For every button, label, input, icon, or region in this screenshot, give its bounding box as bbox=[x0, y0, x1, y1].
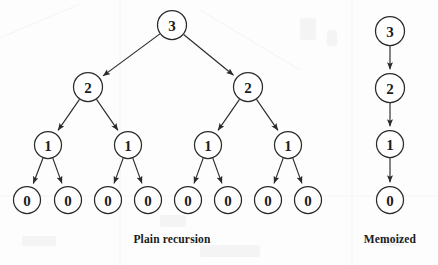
node-label: 1 bbox=[204, 138, 212, 154]
edge-p-r2a-to-p-z5 bbox=[194, 158, 203, 183]
node-label: 0 bbox=[264, 193, 272, 209]
caption-memoized: Memoized bbox=[364, 233, 417, 245]
node-label: 0 bbox=[23, 193, 31, 209]
node-label: 1 bbox=[284, 138, 292, 154]
node-label: 2 bbox=[386, 81, 394, 97]
node-p-z2[interactable]: 0 bbox=[55, 187, 82, 214]
edge-p-l2a-to-p-z1 bbox=[33, 158, 43, 183]
diagram-canvas: 3221111000000003210 Plain recursionMemoi… bbox=[0, 0, 438, 265]
node-label: 0 bbox=[144, 193, 152, 209]
node-p-l2b[interactable]: 1 bbox=[115, 132, 142, 159]
edge-p-r1-to-p-r2a bbox=[218, 99, 239, 130]
node-p-r2b[interactable]: 1 bbox=[275, 132, 302, 159]
edge-p-r2a-to-p-z6 bbox=[213, 158, 222, 183]
node-p-z6[interactable]: 0 bbox=[215, 187, 242, 214]
edge-p-r2b-to-p-z7 bbox=[274, 158, 283, 183]
node-label: 0 bbox=[184, 193, 192, 209]
nodes-layer: 3221111000000003210 bbox=[14, 11, 405, 214]
node-label: 1 bbox=[386, 137, 394, 153]
edge-p-r1-to-p-r2b bbox=[257, 99, 278, 130]
caption-plain-recursion: Plain recursion bbox=[133, 233, 211, 245]
node-label: 0 bbox=[386, 193, 394, 209]
node-label: 2 bbox=[84, 80, 92, 96]
node-p-z7[interactable]: 0 bbox=[255, 187, 282, 214]
node-p-z5[interactable]: 0 bbox=[175, 187, 202, 214]
node-p-r2a[interactable]: 1 bbox=[195, 132, 222, 159]
edge-p-r2b-to-p-z8 bbox=[293, 158, 302, 183]
edges-layer bbox=[33, 34, 390, 184]
node-label: 2 bbox=[244, 80, 252, 96]
node-p-z3[interactable]: 0 bbox=[95, 187, 122, 214]
node-p-r[interactable]: 3 bbox=[158, 11, 187, 40]
node-p-l2a[interactable]: 1 bbox=[35, 132, 62, 159]
edge-p-l1-to-p-l2a bbox=[58, 99, 79, 130]
node-m-0[interactable]: 0 bbox=[377, 187, 404, 214]
edge-p-l2b-to-p-z4 bbox=[133, 158, 142, 183]
node-label: 3 bbox=[168, 18, 176, 34]
node-label: 3 bbox=[386, 24, 394, 40]
edge-p-r-to-p-r1 bbox=[184, 34, 234, 75]
node-p-l1[interactable]: 2 bbox=[74, 73, 103, 102]
captions-layer: Plain recursionMemoized bbox=[133, 233, 416, 245]
node-label: 0 bbox=[304, 193, 312, 209]
node-p-r1[interactable]: 2 bbox=[234, 73, 263, 102]
edge-p-l2a-to-p-z2 bbox=[53, 158, 62, 183]
node-p-z4[interactable]: 0 bbox=[135, 187, 162, 214]
node-label: 0 bbox=[64, 193, 72, 209]
node-p-z1[interactable]: 0 bbox=[14, 187, 41, 214]
recursion-tree-figure: 3221111000000003210 Plain recursionMemoi… bbox=[0, 0, 438, 265]
edge-p-r-to-p-l1 bbox=[103, 34, 160, 76]
node-label: 1 bbox=[124, 138, 132, 154]
node-label: 1 bbox=[44, 138, 52, 154]
edge-p-l2b-to-p-z3 bbox=[114, 158, 123, 183]
node-m-1[interactable]: 1 bbox=[377, 131, 404, 158]
node-label: 0 bbox=[224, 193, 232, 209]
node-m-3[interactable]: 3 bbox=[376, 17, 405, 46]
node-p-z8[interactable]: 0 bbox=[295, 187, 322, 214]
node-m-2[interactable]: 2 bbox=[376, 74, 405, 103]
edge-p-l1-to-p-l2b bbox=[97, 99, 118, 130]
node-label: 0 bbox=[104, 193, 112, 209]
